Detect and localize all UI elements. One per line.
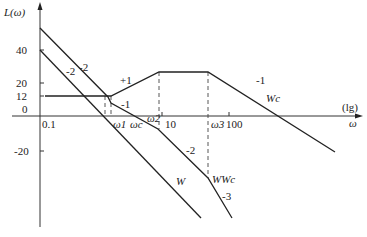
- slope-label-wwc-end: -3: [222, 190, 232, 202]
- y-tick-40: 40: [16, 44, 28, 56]
- y-axis-label: L(ω): [3, 6, 26, 19]
- x-tick-100: 100: [226, 118, 243, 130]
- x-axis-label: ω: [349, 117, 357, 129]
- y-tick-20: 20: [16, 77, 28, 89]
- curve-label-W: W: [176, 175, 186, 187]
- curve-Wc: [45, 72, 335, 152]
- omega3-label: ω3: [211, 118, 225, 130]
- slope-label-wc-fall: -1: [256, 74, 265, 86]
- y-tick-12: 12: [16, 90, 27, 102]
- y-axis-arrow-icon: [38, 2, 43, 10]
- slope-label-wwc-lower: -2: [186, 144, 195, 156]
- y-tick-0: 0: [22, 103, 28, 115]
- curve-label-Wc: Wc: [266, 92, 280, 104]
- x-tick-10: 10: [165, 118, 177, 130]
- slope-label-wwc-mid: -1: [121, 98, 130, 110]
- slope-label-w-upper: -2: [79, 61, 88, 73]
- x-scale-note: (lg): [342, 101, 358, 114]
- y-tick-neg20: -20: [14, 145, 29, 157]
- x-tick-0.1: 0.1: [42, 118, 56, 130]
- curve-label-WWc: WWc: [212, 173, 235, 185]
- bode-diagram: L(ω) 40 20 12 0 -20 0.1 10 100 (lg) ω ω1…: [0, 0, 367, 237]
- slope-label-w-lower: -2: [66, 65, 75, 77]
- slope-label-wc-rise: +1: [120, 74, 132, 86]
